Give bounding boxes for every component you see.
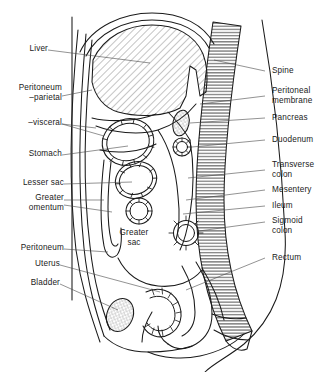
label-spine: Spine — [272, 66, 294, 76]
label-transverse-colon: Transverse colon — [272, 160, 314, 180]
label-duodenum: Duodenum — [272, 135, 313, 145]
uterus-structure — [143, 288, 181, 337]
label-greater-sac: Greater sac — [106, 228, 162, 248]
uterus-wall-ticks — [145, 288, 181, 336]
label-peritoneal-membrane: Peritoneal membrane — [272, 86, 312, 106]
label-peritoneum: Peritoneum — [2, 243, 64, 253]
duodenum-structure — [173, 138, 191, 156]
ileum-structure — [126, 198, 152, 224]
ileum-wall-ticks — [126, 198, 152, 224]
label-bladder: Bladder — [4, 278, 60, 288]
liver-structure — [92, 25, 207, 115]
label-stomach: Stomach — [4, 149, 62, 159]
label-mesentery: Mesentery — [272, 185, 312, 195]
label-rectum: Rectum — [272, 253, 301, 263]
label-lesser-sac: Lesser sac — [2, 178, 64, 188]
label-ileum: Ileum — [272, 201, 293, 211]
anatomical-diagram: Liver Peritoneum –parietal –visceral Sto… — [0, 0, 325, 372]
label-liver: Liver — [6, 44, 48, 54]
label-pancreas: Pancreas — [272, 113, 308, 123]
bladder-structure — [102, 294, 139, 335]
stomach-structure — [96, 112, 160, 172]
stomach-wall-ticks — [96, 112, 160, 172]
label-visceral: –visceral — [2, 118, 62, 128]
label-uterus: Uterus — [4, 259, 60, 269]
label-sigmoid-colon: Sigmoid colon — [272, 216, 303, 236]
duodenum-wall-ticks — [173, 138, 191, 156]
lesser-sac-structure — [110, 155, 162, 204]
label-greater-omentum: Greater omentum — [2, 193, 64, 213]
label-peritoneum-parietal: Peritoneum –parietal — [2, 83, 62, 103]
